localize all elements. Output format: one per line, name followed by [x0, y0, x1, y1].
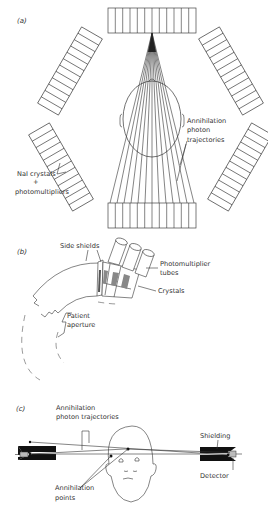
label-trajectories-1: Annihilation	[187, 117, 226, 125]
label-points-1: Annihilation	[55, 484, 94, 492]
label-traj-1: Annihilation	[56, 404, 95, 412]
panel-b: (b) Side shields Photomultipl	[17, 237, 211, 380]
panel-a: (a)	[15, 8, 268, 228]
label-aperture-2: aperture	[67, 321, 95, 329]
label-trajectories-3: trajectories	[187, 136, 225, 144]
trajectory-focal-convergence	[148, 34, 156, 52]
aperture-circle-dashed	[22, 315, 40, 380]
label-side-shields: Side shields	[60, 242, 100, 250]
label-pmt-1: Photomultiplier	[160, 260, 211, 268]
leader-side-shields	[86, 250, 101, 262]
leader-crystals-b	[138, 286, 156, 291]
label-crystals-b: Crystals	[158, 287, 185, 295]
leader-traj	[82, 431, 89, 450]
detector-bank-lower-left	[29, 123, 94, 211]
label-detector: Detector	[200, 472, 229, 480]
detector-bank-upper-right	[199, 27, 264, 115]
label-trajectories-2: photon	[187, 126, 210, 134]
panel-c: (c) Annihilation photon trajectories	[15, 404, 242, 502]
detector-bank-bottom	[108, 203, 196, 228]
label-points-2: points	[55, 494, 76, 502]
detector-bank-top	[108, 8, 196, 33]
patient-face	[106, 426, 156, 502]
panel-b-label: (b)	[17, 248, 27, 256]
panel-c-label: (c)	[16, 405, 26, 413]
label-crystals-1: NaI crystals	[17, 170, 56, 178]
label-pmt-2: tubes	[160, 269, 179, 277]
leader-annihilation-points	[80, 449, 128, 488]
label-shielding: Shielding	[200, 432, 230, 440]
label-crystals-3: photomultipliers	[15, 188, 69, 196]
panel-a-label: (a)	[17, 17, 27, 25]
ring-outer-edge	[33, 263, 100, 296]
detector-bank-upper-left	[38, 27, 103, 115]
ring-cut-edge	[33, 296, 39, 306]
label-crystals-2: +	[33, 178, 39, 186]
label-aperture-1: Patient	[67, 312, 90, 320]
annihilation-trajectories	[110, 33, 194, 203]
label-traj-2: photon trajectories	[56, 413, 119, 421]
pet-diagram-figure: (a)	[0, 0, 268, 510]
